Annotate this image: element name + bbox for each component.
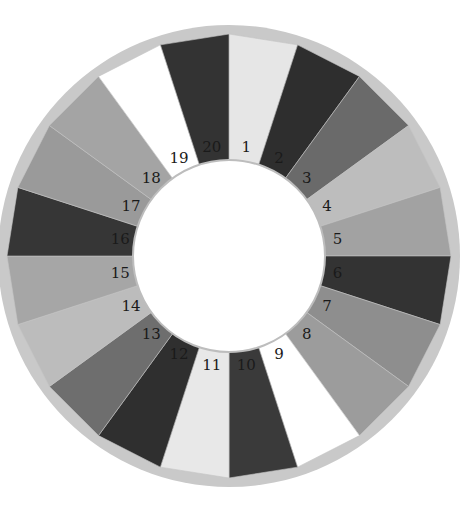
segment-label-2: 2 <box>274 149 284 167</box>
segment-label-10: 10 <box>237 356 256 374</box>
segment-label-17: 17 <box>121 197 140 215</box>
segment-label-8: 8 <box>302 325 312 343</box>
segment-label-16: 16 <box>111 230 130 248</box>
numbered-color-wheel: 1234567891011121314151617181920 <box>0 0 475 518</box>
segment-label-14: 14 <box>121 297 140 315</box>
segment-label-4: 4 <box>322 197 332 215</box>
segment-label-5: 5 <box>333 230 343 248</box>
center-hole <box>133 160 325 352</box>
segment-label-11: 11 <box>202 356 221 374</box>
segment-label-15: 15 <box>111 264 130 282</box>
segment-label-19: 19 <box>170 149 189 167</box>
segment-label-3: 3 <box>302 169 312 187</box>
segment-label-1: 1 <box>241 138 251 156</box>
segment-label-18: 18 <box>142 169 161 187</box>
segment-label-9: 9 <box>274 345 284 363</box>
segment-label-13: 13 <box>142 325 161 343</box>
segment-label-7: 7 <box>322 297 332 315</box>
segment-label-12: 12 <box>170 345 189 363</box>
segment-label-6: 6 <box>333 264 343 282</box>
segment-label-20: 20 <box>202 138 221 156</box>
